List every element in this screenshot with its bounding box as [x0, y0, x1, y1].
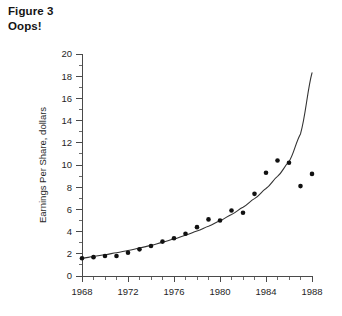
trend-fit-curve — [82, 73, 312, 258]
y-tick-label: 2 — [67, 248, 72, 259]
data-point — [229, 208, 234, 213]
y-tick-label: 0 — [67, 270, 72, 281]
data-point — [298, 184, 303, 189]
data-point — [287, 160, 292, 165]
data-point — [218, 218, 223, 223]
data-point — [149, 244, 154, 249]
data-point — [183, 232, 188, 237]
data-point — [252, 192, 257, 197]
data-point — [137, 247, 142, 252]
x-tick-label: 1980 — [209, 286, 230, 297]
y-tick-label: 14 — [61, 115, 72, 126]
data-point — [241, 210, 246, 215]
data-point — [172, 236, 177, 241]
earnings-per-share-scatter-chart: Earnings Per Share, dollars 024681012141… — [0, 0, 342, 316]
x-tick-label: 1988 — [301, 286, 322, 297]
y-tick-label: 16 — [61, 93, 72, 104]
data-point — [91, 255, 96, 260]
data-point — [264, 170, 269, 175]
data-point — [126, 250, 131, 255]
figure-container: Figure 3 Oops! Earnings Per Share, dolla… — [0, 0, 342, 316]
y-tick-label: 6 — [67, 204, 72, 215]
x-tick-label: 1976 — [163, 286, 184, 297]
y-axis-ticks: 02468101214161820 — [61, 48, 82, 281]
y-axis-title-text: Earnings Per Share, dollars — [37, 107, 48, 223]
data-point — [114, 254, 119, 259]
data-point — [80, 256, 85, 261]
data-point — [310, 172, 315, 177]
data-point-group — [80, 158, 315, 260]
y-tick-label: 20 — [61, 48, 72, 59]
x-tick-label: 1968 — [71, 286, 92, 297]
data-point — [195, 225, 200, 230]
data-point — [206, 217, 211, 222]
y-axis-title: Earnings Per Share, dollars — [37, 107, 48, 223]
y-tick-label: 18 — [61, 71, 72, 82]
y-tick-label: 4 — [67, 226, 72, 237]
x-tick-label: 1972 — [117, 286, 138, 297]
data-point — [160, 239, 165, 244]
data-point — [275, 158, 280, 163]
y-tick-label: 12 — [61, 137, 72, 148]
y-tick-label: 8 — [67, 182, 72, 193]
x-tick-label: 1984 — [255, 286, 276, 297]
x-axis-ticks: 196819721976198019841988 — [71, 276, 322, 297]
y-tick-label: 10 — [61, 159, 72, 170]
data-point — [103, 254, 108, 259]
